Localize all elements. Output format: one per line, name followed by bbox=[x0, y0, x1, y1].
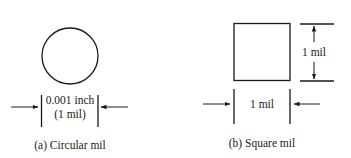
width-label: 1 mil bbox=[250, 98, 274, 110]
square-mil-figure: 1 mil 1 mil (b) Square mil bbox=[203, 24, 334, 151]
square-shape bbox=[234, 24, 290, 81]
height-label: 1 mil bbox=[302, 46, 326, 58]
square-mil-caption: (b) Square mil bbox=[229, 137, 295, 150]
diameter-label-line1: 0.001 inch bbox=[46, 94, 95, 106]
circular-mil-figure: 0.001 inch (1 mil) (a) Circular mil bbox=[11, 28, 128, 152]
mil-diagram: 0.001 inch (1 mil) (a) Circular mil 1 mi… bbox=[0, 0, 351, 158]
circular-mil-caption: (a) Circular mil bbox=[34, 139, 106, 152]
diameter-label-line2: (1 mil) bbox=[54, 108, 86, 121]
circle-shape bbox=[42, 28, 98, 84]
